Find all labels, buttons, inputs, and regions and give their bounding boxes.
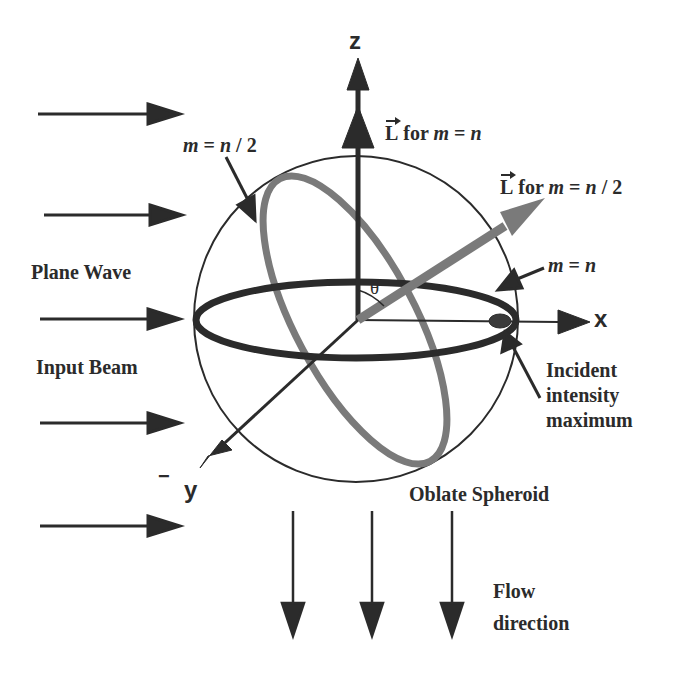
label-incident-2: intensity <box>546 385 619 405</box>
label-l-for-m-eq-n-half: L for m = n / 2 <box>500 177 622 197</box>
label-incident-1: Incident <box>546 360 617 380</box>
symbol-m: m <box>183 134 199 156</box>
equals: = <box>564 176 585 198</box>
flow-arrows <box>282 511 463 636</box>
l-vector-symbol: L <box>500 177 513 197</box>
equals: = <box>564 254 585 276</box>
y-axis-label: y <box>184 478 197 502</box>
label-flow-1: Flow <box>493 581 535 601</box>
intensity-max-marker <box>489 314 511 328</box>
equals: = <box>449 122 470 144</box>
divide-two: / 2 <box>231 134 257 156</box>
symbol-n: n <box>220 134 231 156</box>
symbol-m: m <box>549 176 565 198</box>
theta-label: θ <box>370 278 379 297</box>
text-for: for <box>403 122 428 144</box>
label-m-eq-n-half: m = n / 2 <box>183 135 257 155</box>
label-input-beam: Input Beam <box>36 357 138 377</box>
text-for: for <box>518 176 543 198</box>
label-l-for-m-eq-n: L for m = n <box>385 123 482 143</box>
label-plane-wave: Plane Wave <box>31 262 131 282</box>
label-m-eq-n: m = n <box>548 255 596 275</box>
symbol-m: m <box>548 254 564 276</box>
divide-two: / 2 <box>597 176 623 198</box>
label-flow-2: direction <box>493 613 569 633</box>
label-incident-3: maximum <box>546 410 633 430</box>
symbol-n: n <box>585 254 596 276</box>
y-axis-sign: − <box>158 466 170 486</box>
z-axis-label: z <box>349 29 361 53</box>
x-axis <box>358 310 590 334</box>
symbol-n: n <box>471 122 482 144</box>
symbol-n: n <box>586 176 597 198</box>
equals: = <box>199 134 220 156</box>
x-axis-label: x <box>594 307 607 331</box>
symbol-m: m <box>434 122 450 144</box>
l-vector-symbol: L <box>385 123 398 143</box>
label-oblate-spheroid: Oblate Spheroid <box>409 484 549 504</box>
diagram-canvas <box>0 0 695 673</box>
